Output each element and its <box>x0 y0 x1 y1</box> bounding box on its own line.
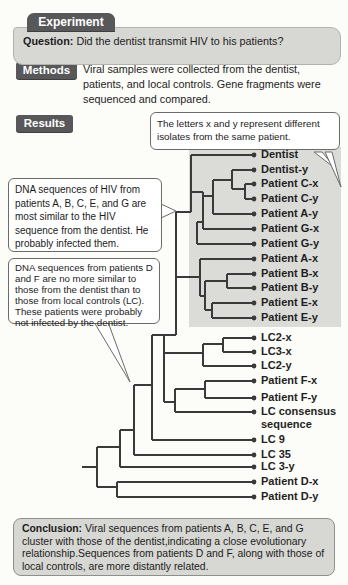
similar-callout-pointer <box>161 204 176 218</box>
conclusion-panel: Conclusion: Viral sequences from patient… <box>13 518 335 576</box>
tip-dot <box>252 379 257 384</box>
tip-dot <box>252 153 257 158</box>
callout-isolates: The letters x and y represent different … <box>150 112 340 150</box>
tip-dot <box>252 480 257 485</box>
tip-dot <box>252 410 257 415</box>
tip-dot <box>252 301 257 306</box>
isolates-callout-pointer-2 <box>325 152 341 187</box>
callout-dentist-cluster: DNA sequences of HIV from patients A, B,… <box>8 178 162 252</box>
tip-dot <box>252 182 257 187</box>
tip-dot <box>252 364 257 369</box>
tip-dot <box>252 168 257 173</box>
tip-dot <box>252 316 257 321</box>
tip-dot <box>252 465 257 470</box>
tip-dot <box>252 242 257 247</box>
tree-tip-dots <box>252 153 257 500</box>
tip-dot <box>252 495 257 500</box>
tip-dot <box>252 396 257 401</box>
tip-dot <box>252 453 257 458</box>
tip-dot <box>252 272 257 277</box>
tip-dot <box>252 286 257 291</box>
experiment-tab: Experiment <box>27 13 115 31</box>
tip-dot <box>252 197 257 202</box>
tip-dot <box>252 350 257 355</box>
tip-dot <box>252 336 257 341</box>
tip-dot <box>252 257 257 262</box>
tip-dot <box>252 438 257 443</box>
tip-dot <box>252 212 257 217</box>
tip-dot <box>252 227 257 232</box>
different-callout-pointer <box>94 322 130 382</box>
conclusion-label: Conclusion: <box>22 523 82 534</box>
callout-not-infected: DNA sequences from patients D and F are … <box>8 258 160 324</box>
